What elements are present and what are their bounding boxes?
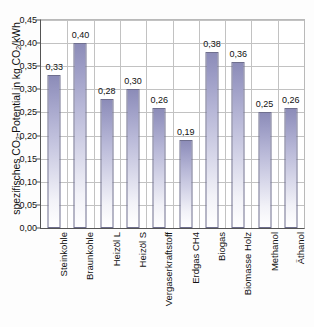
y-axis-tick-label: 0,30 <box>0 84 37 94</box>
x-axis-category-label: Erdgas CH4 <box>190 232 201 327</box>
x-axis-category-label: Biomasse Holz <box>242 232 253 327</box>
bar-slot: 0,26 <box>278 20 304 228</box>
bar[interactable] <box>258 112 271 228</box>
bar[interactable] <box>74 43 87 228</box>
bar[interactable] <box>153 108 166 228</box>
x-axis-category-label: Braunkohle <box>84 232 95 327</box>
bar[interactable] <box>127 89 140 228</box>
bar-slot: 0,26 <box>146 20 172 228</box>
bar-chart: spezifisches CO2-Potential in kg CO2/kWh… <box>0 0 314 327</box>
bar-value-label: 0,19 <box>177 127 195 137</box>
bar-slot: 0,28 <box>94 20 120 228</box>
y-axis-tick-label: 0,05 <box>0 200 37 210</box>
x-axis-category-label: Biogas <box>216 232 227 327</box>
y-axis-tick-label: 0,40 <box>0 38 37 48</box>
bar-slot: 0,30 <box>120 20 146 228</box>
bar-value-label: 0,25 <box>256 99 274 109</box>
bar-value-label: 0,30 <box>124 76 142 86</box>
x-axis-category-label: Vergaserkraftstoff <box>163 232 174 327</box>
bar[interactable] <box>179 140 192 228</box>
bar[interactable] <box>284 108 297 228</box>
bar-slot: 0,25 <box>251 20 277 228</box>
bar-value-label: 0,33 <box>45 62 63 72</box>
x-axis-category-label: Heizöl L <box>111 232 122 327</box>
x-axis-category-label: Heizöl S <box>137 232 148 327</box>
bar-value-label: 0,28 <box>98 86 116 96</box>
bar[interactable] <box>232 62 245 228</box>
bar-slot: 0,36 <box>225 20 251 228</box>
bar-slot: 0,19 <box>173 20 199 228</box>
bar-value-label: 0,26 <box>282 95 300 105</box>
x-axis-category-labels: SteinkohleBraunkohleHeizöl LHeizöl SVerg… <box>41 232 304 327</box>
bar-value-label: 0,38 <box>203 39 221 49</box>
x-axis-category-label: Steinkohle <box>58 232 69 327</box>
y-axis-tick-label: 0,20 <box>0 131 37 141</box>
y-axis-tick-label: 0,35 <box>0 61 37 71</box>
bar-value-label: 0,26 <box>151 95 169 105</box>
bar[interactable] <box>48 75 61 228</box>
y-axis-tick-label: 0,25 <box>0 107 37 117</box>
bar-slot: 0,38 <box>199 20 225 228</box>
bar-value-label: 0,36 <box>229 49 247 59</box>
y-axis-tick-label: 0,10 <box>0 177 37 187</box>
y-axis-tick-label: 0,15 <box>0 154 37 164</box>
bar[interactable] <box>205 52 218 228</box>
bar-slot: 0,40 <box>67 20 93 228</box>
y-axis-tick-label: 0,00 <box>0 223 37 233</box>
bar-value-label: 0,40 <box>72 30 90 40</box>
bar-slot: 0,33 <box>41 20 67 228</box>
x-axis-category-label: Methanol <box>269 232 280 327</box>
y-axis-tick-label: 0,45 <box>0 15 37 25</box>
bar[interactable] <box>100 99 113 228</box>
bar-series: 0,330,400,280,300,260,190,380,360,250,26 <box>41 20 304 228</box>
x-axis-category-label: Äthanol <box>295 232 306 327</box>
